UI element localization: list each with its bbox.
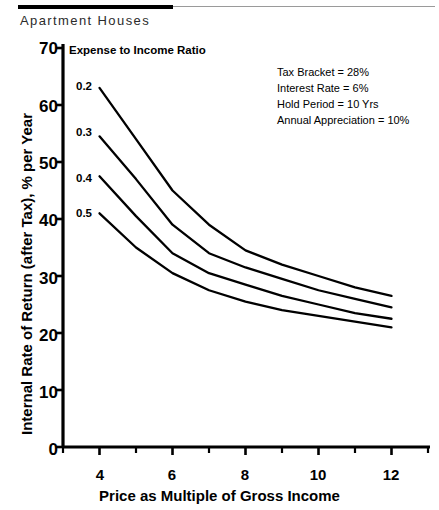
annotation-annual-appreciation: Annual Appreciation = 10% bbox=[277, 114, 409, 126]
curve-label-0.4: 0.4 bbox=[76, 172, 92, 184]
figure-page: Apartment Houses 70 60 50 40 30 20 10 0 … bbox=[0, 0, 439, 510]
annotation-hold-period: Hold Period = 10 Yrs bbox=[277, 98, 409, 110]
annotation-interest-rate: Interest Rate = 6% bbox=[277, 82, 409, 94]
legend-title: Expense to Income Ratio bbox=[69, 44, 206, 56]
x-tick-label-6: 6 bbox=[159, 466, 185, 483]
curve-label-0.3: 0.3 bbox=[76, 126, 92, 138]
curve-0.3 bbox=[100, 136, 392, 307]
x-tick-label-4: 4 bbox=[87, 466, 113, 483]
x-tick-label-12: 12 bbox=[378, 466, 404, 483]
x-axis-title: Price as Multiple of Gross Income bbox=[0, 487, 439, 504]
y-axis-title: Internal Rate of Return (after Tax), % p… bbox=[18, 113, 35, 435]
annotation-tax-bracket: Tax Bracket = 28% bbox=[277, 66, 409, 78]
curve-label-0.2: 0.2 bbox=[76, 80, 92, 92]
curve-label-0.5: 0.5 bbox=[76, 207, 92, 219]
y-tick-label-70: 70 bbox=[24, 39, 58, 59]
x-tick-label-8: 8 bbox=[232, 466, 258, 483]
y-tick-label-0: 0 bbox=[24, 440, 58, 460]
parameter-annotations: Tax Bracket = 28% Interest Rate = 6% Hol… bbox=[277, 66, 409, 126]
x-tick-label-10: 10 bbox=[305, 466, 331, 483]
